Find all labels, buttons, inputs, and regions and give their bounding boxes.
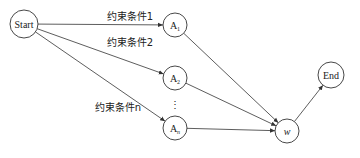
node-label: w [284, 126, 291, 137]
node-label: End [323, 70, 339, 81]
node-w: w [275, 119, 299, 143]
node-end: End [318, 62, 344, 88]
edge-an-w [187, 128, 275, 130]
node-an: An [163, 116, 187, 140]
node-a1: A1 [163, 13, 187, 37]
node-start: Start [10, 10, 38, 38]
node-a2: A2 [163, 66, 187, 90]
edge-a2-w [186, 83, 276, 126]
edge-start-a1 [38, 24, 163, 25]
edge-a1-w [184, 33, 279, 123]
ellipsis: ⋮ [170, 99, 180, 110]
edge-label-an: 约束条件n [95, 101, 141, 113]
edge-w-end [294, 85, 323, 121]
node-label: Start [15, 19, 34, 30]
edge-start-a2 [37, 29, 164, 74]
edge-label-a1: 约束条件1 [107, 10, 153, 22]
flow-diagram: 约束条件1约束条件2约束条件n StartA1A2AnwEnd ⋮ [0, 0, 360, 158]
edge-label-a2: 约束条件2 [107, 36, 153, 48]
